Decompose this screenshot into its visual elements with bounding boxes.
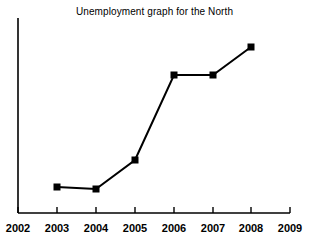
x-axis-label-2009: 2009 bbox=[278, 222, 302, 235]
unemployment-data-line bbox=[57, 47, 251, 189]
data-point-marker-2004 bbox=[93, 186, 99, 192]
x-axis-label-2004: 2004 bbox=[84, 222, 108, 235]
chart-plot-area bbox=[0, 0, 309, 244]
data-point-marker-2006 bbox=[171, 72, 177, 78]
x-axis-label-2005: 2005 bbox=[123, 222, 147, 235]
data-point-marker-2008 bbox=[248, 44, 254, 50]
data-point-marker-2007 bbox=[210, 72, 216, 78]
x-axis-label-2008: 2008 bbox=[239, 222, 263, 235]
x-axis-label-2007: 2007 bbox=[201, 222, 225, 235]
data-point-marker-2003 bbox=[54, 184, 60, 190]
unemployment-line-chart: Unemployment graph for the North 2002200… bbox=[0, 0, 309, 244]
x-axis-label-2002: 2002 bbox=[6, 222, 30, 235]
x-axis-tick-marks bbox=[18, 207, 290, 213]
x-axis-label-2003: 2003 bbox=[45, 222, 69, 235]
data-point-marker-2005 bbox=[132, 157, 138, 163]
x-axis-label-2006: 2006 bbox=[162, 222, 186, 235]
